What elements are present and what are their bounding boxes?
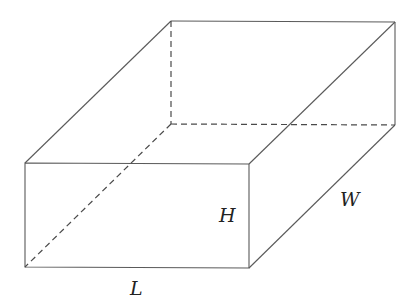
hidden-back-bottom-edge bbox=[171, 124, 395, 125]
top-left-edge bbox=[25, 21, 171, 163]
width-label: W bbox=[340, 188, 361, 210]
height-label: H bbox=[218, 204, 236, 226]
bottom-right-edge bbox=[249, 125, 395, 268]
box-diagram: H W L bbox=[0, 0, 407, 306]
front-face bbox=[25, 163, 249, 268]
hidden-edges bbox=[25, 21, 395, 267]
hidden-left-bottom-edge bbox=[25, 124, 171, 267]
top-back-edge bbox=[171, 21, 395, 22]
length-label: L bbox=[129, 277, 143, 299]
top-right-edge bbox=[249, 22, 395, 164]
visible-edges bbox=[25, 21, 395, 268]
